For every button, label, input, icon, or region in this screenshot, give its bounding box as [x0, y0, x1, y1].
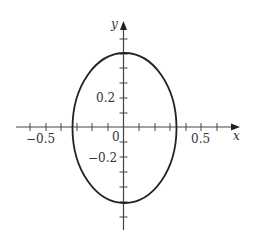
ellipse-curve	[73, 53, 177, 203]
x-axis-label: x	[233, 129, 240, 143]
y-axis-label: y	[110, 17, 118, 31]
x-tick-label-neg: −0.5	[26, 132, 55, 146]
x-tick-label-pos: 0.5	[191, 132, 210, 146]
y-axis-arrow-icon	[120, 21, 127, 30]
origin-label: 0	[112, 130, 120, 144]
y-tick-label-pos: 0.2	[96, 91, 115, 105]
y-tick-label-neg: −0.2	[88, 151, 117, 165]
ellipse-plot: y x −0.5 0.5 0 0.2 −0.2	[0, 0, 258, 234]
